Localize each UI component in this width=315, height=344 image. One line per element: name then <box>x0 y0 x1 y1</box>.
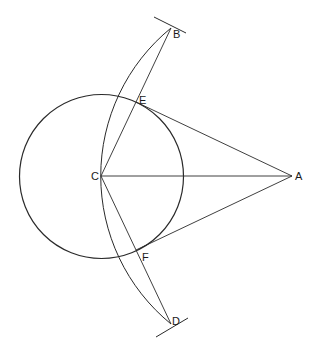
label-a: A <box>295 170 303 182</box>
label-e: E <box>139 94 146 106</box>
label-b: B <box>173 28 180 40</box>
label-c: C <box>91 170 99 182</box>
label-d: D <box>172 315 180 327</box>
tangent-ea <box>136 102 292 176</box>
tangent-fa <box>136 176 292 250</box>
geometry-diagram: B E C A F D <box>0 0 315 344</box>
label-f: F <box>142 251 149 263</box>
